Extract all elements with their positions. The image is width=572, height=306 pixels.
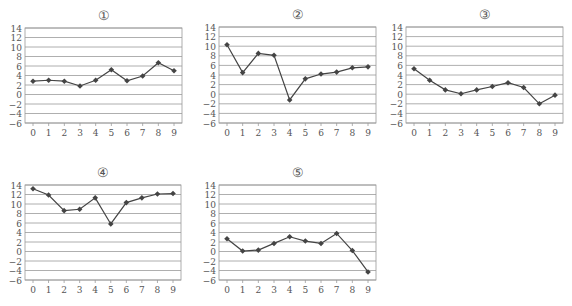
x-tick-label: 8 bbox=[349, 285, 355, 295]
line-chart-1: ①14121086420−2−4−60123456789 bbox=[9, 8, 182, 138]
x-tick-label: 8 bbox=[155, 285, 161, 295]
y-tick-label: 8 bbox=[16, 209, 22, 219]
y-tick-label: 10 bbox=[205, 42, 217, 52]
charts-canvas: ①14121086420−2−4−60123456789②14121086420… bbox=[0, 0, 572, 306]
chart-title: ④ bbox=[97, 165, 109, 180]
y-tick-label: 8 bbox=[16, 52, 22, 62]
x-tick-label: 4 bbox=[474, 128, 480, 138]
chart-title: ② bbox=[292, 7, 304, 22]
y-tick-label: 6 bbox=[16, 62, 22, 72]
y-tick-label: 8 bbox=[397, 51, 403, 61]
x-tick-label: 6 bbox=[123, 285, 129, 295]
y-tick-label: −2 bbox=[203, 257, 216, 267]
x-tick-label: 8 bbox=[536, 128, 542, 138]
x-tick-label: 1 bbox=[46, 128, 52, 138]
x-tick-label: 7 bbox=[140, 128, 146, 138]
y-tick-label: 4 bbox=[16, 71, 22, 81]
y-tick-label: 2 bbox=[397, 80, 403, 90]
x-tick-label: 7 bbox=[334, 285, 340, 295]
x-tick-label: 7 bbox=[521, 128, 527, 138]
y-tick-label: 0 bbox=[210, 247, 216, 257]
data-point-marker bbox=[318, 71, 324, 77]
y-tick-label: −4 bbox=[203, 109, 217, 119]
x-tick-label: 1 bbox=[240, 285, 246, 295]
x-tick-label: 1 bbox=[427, 128, 433, 138]
y-tick-label: 14 bbox=[11, 24, 23, 34]
y-tick-label: −6 bbox=[203, 276, 217, 286]
y-tick-label: −6 bbox=[390, 119, 404, 129]
y-tick-label: −2 bbox=[390, 99, 403, 109]
y-tick-label: 2 bbox=[210, 80, 216, 90]
x-tick-label: 9 bbox=[170, 285, 176, 295]
y-tick-label: 12 bbox=[11, 33, 22, 43]
y-tick-label: 14 bbox=[11, 181, 23, 191]
y-tick-label: −4 bbox=[203, 266, 217, 276]
x-tick-label: 5 bbox=[489, 128, 495, 138]
x-tick-label: 0 bbox=[224, 128, 230, 138]
data-point-marker bbox=[458, 91, 464, 97]
y-tick-label: 10 bbox=[392, 42, 404, 52]
y-tick-label: −4 bbox=[390, 109, 404, 119]
x-tick-label: 7 bbox=[334, 128, 340, 138]
y-tick-label: −4 bbox=[9, 109, 23, 119]
y-tick-label: 12 bbox=[11, 190, 22, 200]
x-tick-label: 6 bbox=[124, 128, 130, 138]
x-tick-label: 9 bbox=[365, 128, 371, 138]
line-chart-3: ③14121086420−2−4−60123456789 bbox=[390, 7, 563, 138]
x-tick-label: 3 bbox=[458, 128, 464, 138]
data-point-marker bbox=[77, 83, 83, 89]
x-tick-label: 0 bbox=[411, 128, 417, 138]
y-tick-label: 6 bbox=[210, 61, 216, 71]
y-tick-label: 6 bbox=[16, 219, 22, 229]
x-tick-label: 5 bbox=[302, 285, 308, 295]
data-point-marker bbox=[334, 69, 340, 75]
x-tick-label: 1 bbox=[46, 285, 52, 295]
x-tick-label: 3 bbox=[77, 128, 83, 138]
x-tick-label: 9 bbox=[171, 128, 177, 138]
y-tick-label: 14 bbox=[392, 23, 404, 33]
y-tick-label: 0 bbox=[397, 90, 403, 100]
series-line bbox=[227, 233, 368, 271]
x-tick-label: 2 bbox=[255, 128, 261, 138]
x-tick-label: 0 bbox=[224, 285, 230, 295]
x-tick-label: 1 bbox=[240, 128, 246, 138]
series-line bbox=[227, 45, 368, 100]
y-tick-label: −2 bbox=[9, 100, 22, 110]
data-point-marker bbox=[139, 195, 145, 201]
y-tick-label: 2 bbox=[16, 238, 22, 248]
x-tick-label: 0 bbox=[30, 128, 36, 138]
y-tick-label: 12 bbox=[392, 32, 403, 42]
y-tick-label: 8 bbox=[210, 209, 216, 219]
x-tick-label: 4 bbox=[287, 128, 293, 138]
series-line bbox=[414, 69, 555, 104]
x-tick-label: 5 bbox=[108, 285, 114, 295]
y-tick-label: −4 bbox=[9, 266, 23, 276]
x-tick-label: 2 bbox=[61, 128, 67, 138]
x-tick-label: 6 bbox=[505, 128, 511, 138]
data-point-marker bbox=[443, 87, 449, 93]
y-tick-label: 12 bbox=[205, 32, 216, 42]
y-tick-label: 4 bbox=[397, 71, 403, 81]
data-point-marker bbox=[62, 78, 68, 84]
y-tick-label: 0 bbox=[16, 90, 22, 100]
data-point-marker bbox=[30, 78, 36, 84]
data-point-marker bbox=[474, 87, 480, 93]
data-point-marker bbox=[155, 191, 161, 197]
y-tick-label: −6 bbox=[9, 119, 23, 129]
y-tick-label: 10 bbox=[11, 43, 23, 53]
x-tick-label: 2 bbox=[255, 285, 261, 295]
x-tick-label: 3 bbox=[271, 285, 277, 295]
y-tick-label: 4 bbox=[210, 71, 216, 81]
data-point-marker bbox=[256, 247, 262, 253]
data-point-marker bbox=[224, 42, 230, 48]
y-tick-label: −2 bbox=[9, 257, 22, 267]
line-chart-5: ⑤14121086420−2−4−60123456789 bbox=[203, 165, 376, 295]
y-tick-label: 4 bbox=[16, 228, 22, 238]
series-line bbox=[33, 189, 173, 224]
x-tick-label: 9 bbox=[552, 128, 558, 138]
x-tick-label: 3 bbox=[271, 128, 277, 138]
data-point-marker bbox=[318, 241, 324, 247]
chart-title: ⑤ bbox=[292, 165, 304, 180]
y-tick-label: 14 bbox=[205, 23, 217, 33]
x-tick-label: 0 bbox=[30, 285, 36, 295]
